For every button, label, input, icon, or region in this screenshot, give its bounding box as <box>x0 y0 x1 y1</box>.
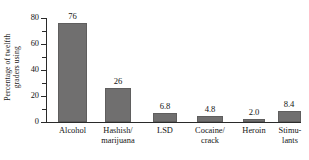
bar-hashish[interactable] <box>105 88 131 122</box>
x-axis-label-cocaine: Cocaine/ crack <box>185 126 235 146</box>
x-axis-line <box>46 122 301 123</box>
y-tick-mark-60 <box>41 44 46 45</box>
y-tick-label-80: 80 <box>15 14 39 22</box>
x-axis-label-hashish-line-1: Hashish/ <box>92 126 144 136</box>
x-axis-label-alcohol-line-1: Alcohol <box>48 126 97 136</box>
x-axis-label-alcohol: Alcohol <box>48 126 97 136</box>
bar-stimulants[interactable] <box>278 111 301 122</box>
y-tick-mark-10 <box>42 109 46 110</box>
bar-chart: Percentage of twelfth graders using 80 6… <box>0 0 309 160</box>
bar-value-alcohol: 76 <box>58 12 87 21</box>
y-tick-mark-30 <box>42 83 46 84</box>
y-tick-label-20: 20 <box>15 92 39 100</box>
y-tick-mark-40 <box>41 70 46 71</box>
x-axis-label-heroin: Heroin <box>233 126 275 136</box>
y-axis-line <box>46 18 47 122</box>
x-axis-label-hashish: Hashish/ marijuana <box>92 126 144 146</box>
y-tick-label-0: 0 <box>15 118 39 126</box>
y-tick-mark-70 <box>42 31 46 32</box>
bar-value-hashish: 26 <box>105 77 131 86</box>
bar-cocaine[interactable] <box>197 116 223 122</box>
x-axis-label-stimulants: Stimu- lants <box>272 126 308 146</box>
bar-heroin[interactable] <box>243 119 265 122</box>
y-tick-label-40: 40 <box>15 66 39 74</box>
x-axis-label-lsd-line-1: LSD <box>147 126 183 136</box>
bar-value-stimulants: 8.4 <box>275 100 303 109</box>
bar-lsd[interactable] <box>153 113 177 122</box>
bar-value-lsd: 6.8 <box>151 102 179 111</box>
x-axis-label-hashish-line-2: marijuana <box>92 136 144 146</box>
x-axis-label-stimulants-line-2: lants <box>272 136 308 146</box>
x-axis-label-cocaine-line-2: crack <box>185 136 235 146</box>
x-axis-label-lsd: LSD <box>147 126 183 136</box>
y-tick-label-60: 60 <box>15 40 39 48</box>
x-axis-label-heroin-line-1: Heroin <box>233 126 275 136</box>
y-tick-mark-50 <box>42 57 46 58</box>
y-tick-mark-80 <box>41 18 46 19</box>
bar-alcohol[interactable] <box>58 23 87 122</box>
bar-value-heroin: 2.0 <box>240 108 268 117</box>
x-axis-label-cocaine-line-1: Cocaine/ <box>185 126 235 136</box>
x-axis-label-stimulants-line-1: Stimu- <box>272 126 308 136</box>
bar-value-cocaine: 4.8 <box>196 105 224 114</box>
y-tick-mark-20 <box>41 96 46 97</box>
y-tick-mark-0 <box>41 122 46 123</box>
